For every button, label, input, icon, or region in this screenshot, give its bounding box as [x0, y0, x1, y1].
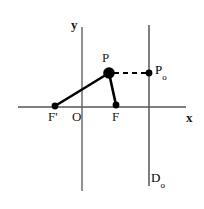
x-axis-label: x — [186, 111, 193, 124]
point-label-p: P — [102, 51, 109, 64]
diagram-canvas — [0, 0, 204, 209]
directrix-label-subscript: o — [160, 180, 165, 190]
directrix-label-group: D o — [151, 168, 160, 186]
point-label-f: F — [112, 110, 119, 123]
origin-label: O — [72, 110, 81, 123]
ellipse-focus-directrix-figure: y x O F' F P P o D o — [0, 0, 204, 209]
point-dot-f — [113, 102, 120, 109]
point-dot-p — [103, 67, 115, 79]
directrix-label-base: D — [151, 170, 160, 185]
point-label-p-zero-subscript: o — [162, 72, 167, 82]
point-label-f-prime: F' — [48, 110, 58, 123]
point-label-p-zero-base: P — [155, 62, 162, 77]
y-axis-label: y — [71, 18, 78, 31]
point-dot-p-zero — [146, 70, 153, 77]
point-label-p-zero-group: P o — [155, 60, 162, 78]
